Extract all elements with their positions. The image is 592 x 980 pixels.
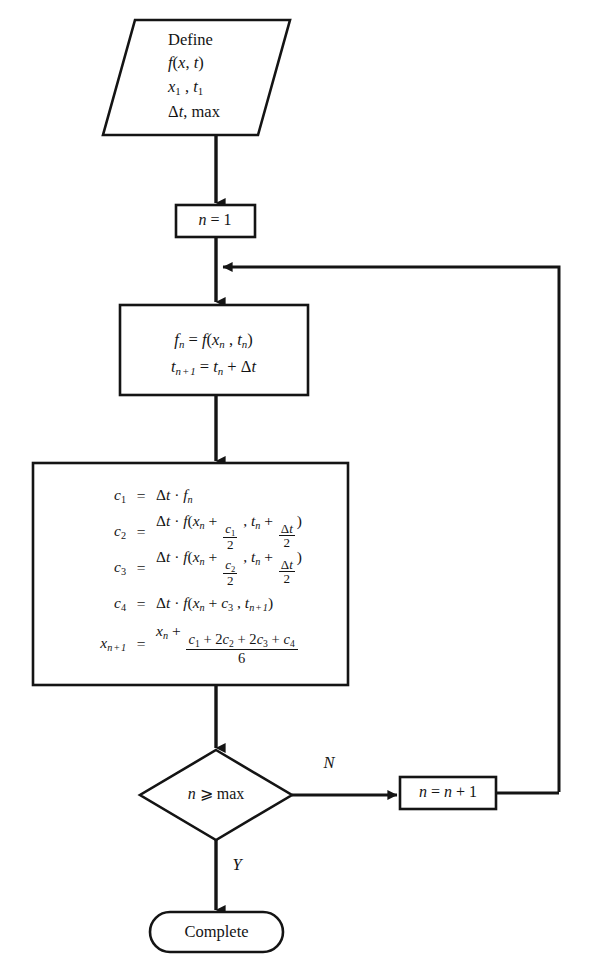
rk4-c4-rhs: Δt · f(xn + c3 , tn + 1) bbox=[156, 594, 345, 613]
rk4-equation-c3: c3 = Δt · f(xn + c22 , tn + Δt2) bbox=[60, 550, 345, 586]
rk4-c3-lhs: c3 bbox=[60, 558, 126, 577]
increment-node-text: n = n + 1 bbox=[401, 783, 495, 802]
rk4-c1-lhs: c1 bbox=[60, 486, 126, 505]
rk4-equation-c4: c4 = Δt · f(xn + c3 , tn + 1) bbox=[60, 586, 345, 622]
rk4-equation-c1: c1 = Δt · fn bbox=[60, 478, 345, 514]
step-line-1: fn = f(xn , tn) bbox=[120, 327, 307, 354]
step-node-text: fn = f(xn , tn) tn + 1 = tn + Δt bbox=[120, 327, 307, 381]
rk4-c1-op: = bbox=[126, 487, 156, 505]
define-line-4: Δt, max bbox=[168, 100, 288, 123]
rk4-xn1-lhs: xn + 1 bbox=[60, 634, 126, 653]
decision-node-text: n ⩾ max bbox=[146, 785, 286, 804]
rk4-xn1-op: = bbox=[126, 635, 156, 653]
edge-label-yes: Y bbox=[226, 855, 248, 874]
define-node-text: Define f(x, t) x1 , t1 Δt, max bbox=[168, 28, 288, 123]
define-line-1: Define bbox=[168, 28, 288, 51]
rk4-c2-rhs: Δt · f(xn + c12 , tn + Δt2) bbox=[156, 512, 345, 552]
rk4-c2-op: = bbox=[126, 523, 156, 541]
init-node-text: n = 1 bbox=[176, 211, 254, 230]
rk4-equation-xn1: xn + 1 = xn + c1 + 2c2 + 2c3 + c46 bbox=[60, 622, 345, 666]
rk4-node-text: c1 = Δt · fn c2 = Δt · f(xn + c12 , tn +… bbox=[60, 478, 345, 666]
define-line-2: f(x, t) bbox=[168, 51, 288, 74]
rk4-c1-rhs: Δt · fn bbox=[156, 486, 345, 505]
step-line-2: tn + 1 = tn + Δt bbox=[120, 354, 307, 381]
flowchart: Define f(x, t) x1 , t1 Δt, max n = 1 fn … bbox=[0, 0, 592, 980]
edge-label-no: N bbox=[318, 753, 340, 772]
rk4-xn1-rhs: xn + c1 + 2c2 + 2c3 + c46 bbox=[156, 622, 345, 666]
rk4-equation-c2: c2 = Δt · f(xn + c12 , tn + Δt2) bbox=[60, 514, 345, 550]
rk4-c4-lhs: c4 bbox=[60, 594, 126, 613]
define-line-3: x1 , t1 bbox=[168, 75, 288, 100]
rk4-c3-op: = bbox=[126, 559, 156, 577]
rk4-c3-rhs: Δt · f(xn + c22 , tn + Δt2) bbox=[156, 548, 345, 588]
terminal-node-text: Complete bbox=[150, 922, 283, 941]
rk4-c2-lhs: c2 bbox=[60, 522, 126, 541]
rk4-c4-op: = bbox=[126, 595, 156, 613]
